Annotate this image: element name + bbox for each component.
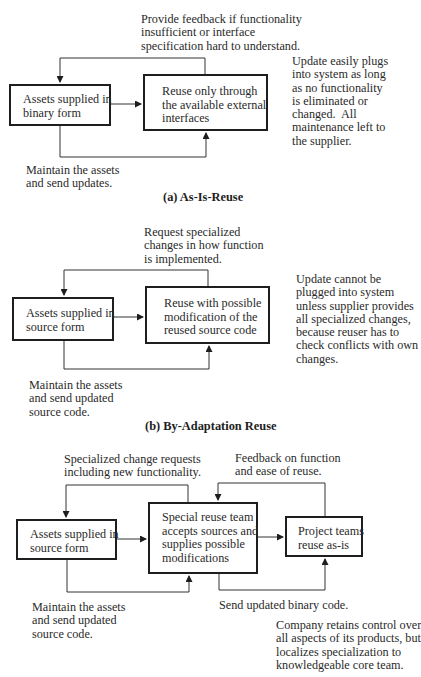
- caption-a: (a) As-Is-Reuse: [163, 190, 243, 205]
- feedback-label-b: Request specialized changes in how funct…: [144, 226, 263, 266]
- feedback-label-c2: Feedback on function and ease of reuse.: [235, 452, 341, 479]
- maintain-arrow-b: [64, 341, 209, 369]
- note-a: Update easily plugs into system as long …: [292, 55, 388, 148]
- box-label: Reuse with possible modification of the …: [164, 297, 262, 338]
- box-label: Special reuse team accepts sources and s…: [162, 511, 258, 565]
- note-c: Company retains control over all aspects…: [276, 619, 421, 672]
- caption-b: (b) By-Adaptation Reuse: [145, 419, 277, 434]
- maintain-label-c: Maintain the assets and send updated sou…: [32, 601, 125, 641]
- note-b: Update cannot be plugged into system unl…: [296, 273, 418, 366]
- box-label: Assets supplied in source form: [30, 528, 119, 555]
- assets-source-box-c: Assets supplied in source form: [16, 519, 117, 560]
- assets-binary-box: Assets supplied in binary form: [9, 84, 111, 126]
- maintain-label-b: Maintain the assets and send updated sou…: [29, 379, 122, 419]
- feedback-label-c1: Specialized change requests including ne…: [64, 453, 201, 480]
- reuse-interfaces-box: Reuse only through the available externa…: [143, 74, 268, 131]
- reuse-modification-box: Reuse with possible modification of the …: [145, 286, 270, 344]
- box-label: Reuse only through the available externa…: [162, 85, 266, 126]
- project-teams-box: Project teams reuse as-is: [285, 516, 363, 557]
- box-label: Project teams reuse as-is: [298, 525, 364, 552]
- send-binary-label: Send updated binary code.: [219, 599, 348, 612]
- special-reuse-team-box: Special reuse team accepts sources and s…: [148, 502, 258, 574]
- assets-source-box-b: Assets supplied in source form: [12, 297, 114, 341]
- box-label: Assets supplied in binary form: [23, 93, 112, 120]
- maintain-label-a: Maintain the assets and send updates.: [26, 164, 119, 191]
- feedback-label-a: Provide feedback if functionality insuff…: [141, 13, 302, 53]
- box-label: Assets supplied in source form: [26, 307, 115, 334]
